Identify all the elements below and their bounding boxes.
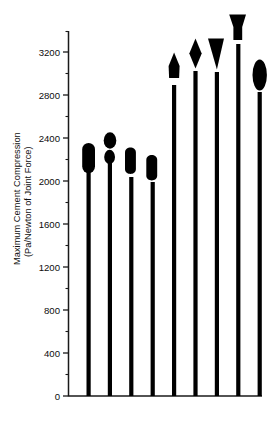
bar-stem-7 [215,72,219,396]
bar-marker-capsule-1 [82,143,95,173]
y-axis-title: Maximum Cement Compression (Pa/Newton of… [12,132,33,265]
bar-stem-4 [151,182,155,396]
bar-stem-5 [172,85,176,396]
bar-stem-2 [108,162,112,396]
bar-marker-neck-4 [149,157,155,164]
chart-container: 0 400 800 1200 1600 2000 2400 2800 3200 … [0,0,277,423]
bar-stem-6 [193,71,197,396]
bar-stem-3 [129,177,133,396]
y-axis-title-line1: Maximum Cement Compression [12,132,22,265]
y-axis-title-line2: (Pa/Newton of Joint Force) [23,146,33,257]
bar-marker-ellipse-9 [253,60,267,91]
y-tick-label-0: 0 [55,391,60,402]
y-tick-label-2800: 2800 [39,90,60,101]
y-tick-label-400: 400 [44,348,60,359]
bar-stem-9 [258,92,262,396]
compression-bar-chart: 0 400 800 1200 1600 2000 2400 2800 3200 … [0,0,277,423]
bar-marker-neck-3 [128,149,134,157]
bar-marker-circle-upper-2 [104,132,117,148]
bar-marker-circle-lower-2 [104,150,115,164]
bar-stem-8 [236,44,240,396]
chart-background [0,0,277,423]
y-tick-label-1200: 1200 [39,262,60,273]
y-tick-label-1600: 1600 [39,219,60,230]
bar-stem-1 [87,170,91,396]
y-tick-label-800: 800 [44,305,60,316]
y-tick-label-3200: 3200 [39,47,60,58]
y-tick-label-2000: 2000 [39,176,60,187]
y-tick-label-2400: 2400 [39,133,60,144]
